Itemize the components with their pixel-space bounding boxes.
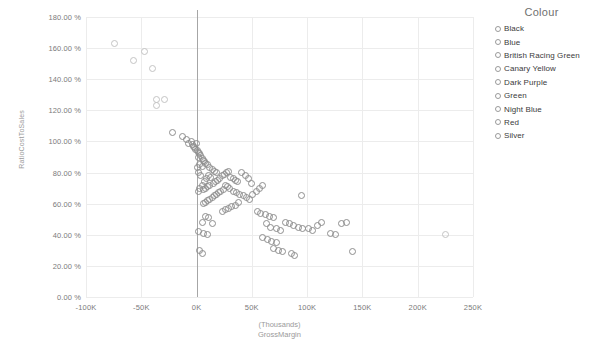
legend-item-label: Canary Yellow xyxy=(504,64,556,73)
legend-marker-circle-icon xyxy=(495,66,501,72)
legend-item-label: Silver xyxy=(504,131,525,140)
legend-item[interactable]: Green xyxy=(492,89,605,102)
gridline-vertical xyxy=(86,17,87,297)
legend-item[interactable]: Blue xyxy=(492,35,605,48)
gridline-horizontal xyxy=(86,297,473,298)
gridline-horizontal xyxy=(86,204,473,205)
data-point[interactable] xyxy=(270,214,277,221)
legend: Colour BlackBlueBritish Racing GreenCana… xyxy=(492,6,605,143)
gridline-horizontal xyxy=(86,141,473,142)
legend-marker-circle-icon xyxy=(495,133,501,139)
y-axis-tick-label: 60.00 % xyxy=(1,199,81,208)
data-point[interactable] xyxy=(169,129,176,136)
gridline-vertical xyxy=(141,17,142,297)
data-point[interactable] xyxy=(153,102,160,109)
data-point[interactable] xyxy=(219,208,226,215)
x-axis-title-field: GrossMargin xyxy=(86,330,473,340)
gridline-horizontal xyxy=(86,266,473,267)
data-point[interactable] xyxy=(199,219,206,226)
legend-item[interactable]: Silver xyxy=(492,129,605,142)
data-point[interactable] xyxy=(161,96,168,103)
gridline-vertical xyxy=(362,17,363,297)
legend-item[interactable]: Night Blue xyxy=(492,102,605,115)
gridline-vertical xyxy=(473,17,474,297)
data-point[interactable] xyxy=(111,40,118,47)
data-point[interactable] xyxy=(318,219,325,226)
data-point[interactable] xyxy=(193,140,200,147)
legend-marker-circle-icon xyxy=(495,26,501,32)
data-point[interactable] xyxy=(291,252,298,259)
data-point[interactable] xyxy=(209,220,216,227)
x-axis-title: (Thousands) GrossMargin xyxy=(86,320,473,340)
legend-item[interactable]: British Racing Green xyxy=(492,49,605,62)
data-point[interactable] xyxy=(141,48,148,55)
data-point[interactable] xyxy=(130,57,137,64)
gridline-horizontal xyxy=(86,79,473,80)
gridline-vertical xyxy=(418,17,419,297)
legend-marker-circle-icon xyxy=(495,93,501,99)
data-point[interactable] xyxy=(277,227,284,234)
legend-marker-circle-icon xyxy=(495,106,501,112)
gridline-vertical xyxy=(307,17,308,297)
legend-item-label: Dark Purple xyxy=(504,78,547,87)
gridline-horizontal xyxy=(86,173,473,174)
y-axis-tick-label: 80.00 % xyxy=(1,168,81,177)
chart-page: RatioCostToSales (Thousands) GrossMargin… xyxy=(0,0,605,352)
legend-marker-circle-icon xyxy=(495,79,501,85)
data-point[interactable] xyxy=(298,192,305,199)
legend-marker-circle-icon xyxy=(495,39,501,45)
gridline-vertical xyxy=(252,17,253,297)
data-point[interactable] xyxy=(279,248,286,255)
legend-item-label: Blue xyxy=(504,38,520,47)
legend-item[interactable]: Canary Yellow xyxy=(492,62,605,75)
data-point[interactable] xyxy=(442,231,449,238)
legend-item-label: British Racing Green xyxy=(504,51,580,60)
scatter-chart: RatioCostToSales (Thousands) GrossMargin… xyxy=(0,0,488,352)
legend-item[interactable]: Black xyxy=(492,22,605,35)
legend-item-label: Green xyxy=(504,91,527,100)
y-axis-tick-label: 120.00 % xyxy=(1,106,81,115)
x-axis-tick-label: 100K xyxy=(277,303,337,312)
legend-item[interactable]: Red xyxy=(492,116,605,129)
data-point[interactable] xyxy=(234,178,241,185)
data-point[interactable] xyxy=(259,182,266,189)
legend-marker-circle-icon xyxy=(495,119,501,125)
data-point[interactable] xyxy=(343,219,350,226)
x-axis-tick-label: 0K xyxy=(167,303,227,312)
x-axis-tick-label: -100K xyxy=(56,303,116,312)
data-point[interactable] xyxy=(332,231,339,238)
y-axis-tick-label: 0.00 % xyxy=(1,293,81,302)
data-point[interactable] xyxy=(199,250,206,257)
x-axis-tick-label: 150K xyxy=(332,303,392,312)
legend-title: Colour xyxy=(492,6,605,18)
gridline-horizontal xyxy=(86,17,473,18)
x-axis-tick-label: 200K xyxy=(388,303,448,312)
y-axis-tick-label: 20.00 % xyxy=(1,261,81,270)
data-point[interactable] xyxy=(149,65,156,72)
gridline-horizontal xyxy=(86,235,473,236)
data-point[interactable] xyxy=(349,248,356,255)
y-axis-tick-label: 100.00 % xyxy=(1,137,81,146)
plot-area xyxy=(86,17,473,297)
gridline-horizontal xyxy=(86,110,473,111)
legend-item-label: Black xyxy=(504,24,524,33)
y-axis-tick-label: 180.00 % xyxy=(1,13,81,22)
data-point[interactable] xyxy=(204,231,211,238)
legend-item-label: Red xyxy=(504,118,519,127)
legend-item[interactable]: Dark Purple xyxy=(492,76,605,89)
x-axis-tick-label: 250K xyxy=(443,303,503,312)
data-point[interactable] xyxy=(200,200,207,207)
y-axis-tick-label: 40.00 % xyxy=(1,230,81,239)
y-axis-tick-label: 140.00 % xyxy=(1,75,81,84)
x-axis-tick-label: -50K xyxy=(111,303,171,312)
x-axis-title-units: (Thousands) xyxy=(86,320,473,330)
legend-item-list: BlackBlueBritish Racing GreenCanary Yell… xyxy=(492,22,605,143)
legend-item-label: Night Blue xyxy=(504,105,542,114)
y-axis-tick-label: 160.00 % xyxy=(1,44,81,53)
x-axis-tick-label: 50K xyxy=(222,303,282,312)
legend-marker-circle-icon xyxy=(495,52,501,58)
